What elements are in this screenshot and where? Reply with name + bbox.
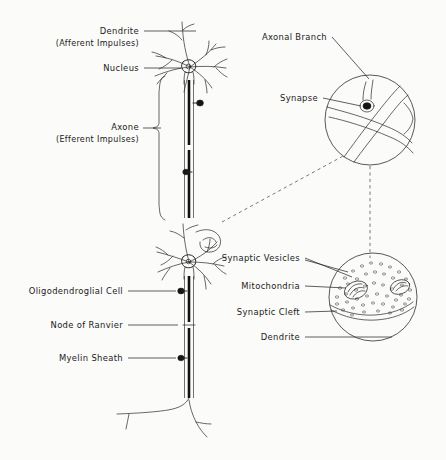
label-dendrite-sub: (Afferent Impulses) [56, 39, 139, 48]
neuron-diagram: Dendrite (Afferent Impulses) Nucleus Axo… [0, 0, 446, 460]
detail-circle-synapse [325, 75, 415, 165]
axon-upper [185, 80, 194, 218]
leader-synaptic-vesicles-1 [305, 258, 352, 277]
axon-lower [183, 276, 195, 398]
oligodendroglial-cells-lower [178, 288, 187, 361]
label-synaptic-vesicles: Synaptic Vesicles [222, 253, 300, 263]
synaptic-vesicles-group [335, 262, 411, 316]
label-myelin-sheath: Myelin Sheath [59, 353, 123, 363]
dendrites-lower [156, 224, 226, 289]
mitochondrion-left [342, 278, 371, 303]
leader-synaptic-cleft [305, 311, 337, 312]
label-synaptic-cleft: Synaptic Cleft [237, 307, 301, 317]
label-synapse: Synapse [280, 93, 318, 103]
label-node-of-ranvier: Node of Ranvier [51, 320, 124, 330]
label-nucleus: Nucleus [103, 63, 139, 73]
oligodendroglial-cells-upper [183, 100, 204, 175]
label-dendrite: Dendrite [100, 26, 139, 36]
label-dendrite-detail: Dendrite [261, 332, 300, 342]
axon-terminals [117, 398, 211, 437]
label-oligodendroglial-cell: Oligodendroglial Cell [29, 286, 123, 296]
label-mitochondria: Mitochondria [241, 281, 300, 291]
detail-circle-terminal [329, 253, 417, 341]
label-axon: Axone [111, 122, 139, 132]
label-axonal-branch: Axonal Branch [262, 32, 327, 42]
axon-brace [153, 76, 165, 220]
leader-axonal-branch [332, 37, 369, 79]
neuron-lower [156, 224, 226, 289]
label-axon-sub: (Efferent Impulses) [56, 135, 139, 144]
magnifier-line-upper [222, 155, 345, 222]
